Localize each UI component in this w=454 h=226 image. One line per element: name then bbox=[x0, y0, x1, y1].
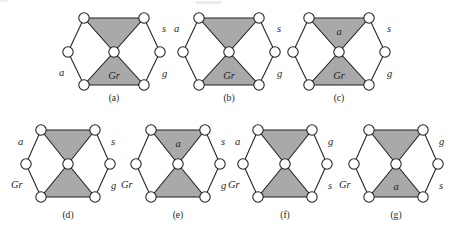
node-right bbox=[215, 159, 225, 169]
node-right bbox=[433, 159, 443, 169]
inner-label-bottom: a bbox=[393, 181, 398, 192]
node-center bbox=[391, 159, 401, 169]
node-center bbox=[224, 47, 234, 57]
node-center bbox=[334, 47, 344, 57]
outer-label-upper-left: a bbox=[18, 136, 23, 147]
inner-label-top: a bbox=[336, 26, 341, 37]
diagram-caption: (b) bbox=[223, 92, 234, 104]
node-top-right bbox=[364, 13, 374, 23]
diagram-d: a Gr s g (d) bbox=[12, 118, 122, 221]
outer-label-upper-right: g bbox=[439, 136, 444, 147]
node-left bbox=[238, 159, 248, 169]
node-top-left bbox=[364, 125, 374, 135]
diagram-caption: (f) bbox=[280, 209, 290, 221]
node-top-left bbox=[79, 13, 89, 23]
node-center bbox=[63, 159, 73, 169]
diagram-row-bottom: a Gr s g (d) bbox=[0, 118, 454, 221]
node-bottom-left bbox=[194, 80, 204, 90]
node-bottom-left bbox=[253, 192, 263, 202]
node-bottom-left bbox=[304, 80, 314, 90]
outer-label-lower-left: Gr bbox=[228, 179, 241, 190]
inner-label-bottom: Gr bbox=[108, 70, 121, 81]
node-bottom-right bbox=[254, 80, 264, 90]
node-bottom-right bbox=[139, 80, 149, 90]
diagram-g: a Gr g s (g) bbox=[340, 118, 450, 221]
node-top-right bbox=[200, 125, 210, 135]
node-left bbox=[288, 47, 298, 57]
inner-label-top: a bbox=[175, 138, 180, 149]
node-top-right bbox=[307, 125, 317, 135]
node-top-left bbox=[146, 125, 156, 135]
node-bottom-left bbox=[36, 192, 46, 202]
node-right bbox=[105, 159, 115, 169]
outer-label-upper-right: s bbox=[277, 23, 281, 34]
diagram-d-graph: a Gr s g (d) bbox=[12, 118, 122, 221]
node-top-right bbox=[254, 13, 264, 23]
diagram-caption: (g) bbox=[390, 209, 401, 221]
outer-label-lower-left: a bbox=[59, 67, 64, 78]
node-bottom-left bbox=[364, 192, 374, 202]
diagram-row-top: Gr a s g (a) bbox=[0, 6, 454, 103]
outer-label-lower-left: Gr bbox=[339, 179, 352, 190]
outer-label-lower-left: Gr bbox=[11, 179, 24, 190]
outer-label-upper-right: s bbox=[111, 136, 115, 147]
diagram-caption: (e) bbox=[173, 209, 184, 221]
figure-container: Gr a s g (a) bbox=[0, 0, 454, 226]
diagram-g-graph: a Gr g s (g) bbox=[340, 118, 450, 221]
node-top-right bbox=[418, 125, 428, 135]
node-top-right bbox=[90, 125, 100, 135]
scan-artifact bbox=[196, 1, 222, 4]
node-bottom-right bbox=[307, 192, 317, 202]
outer-label-lower-right: g bbox=[221, 180, 226, 191]
outer-label-lower-right: g bbox=[162, 68, 167, 79]
node-top-right bbox=[139, 13, 149, 23]
outer-label-upper-right: s bbox=[221, 136, 225, 147]
node-bottom-right bbox=[200, 192, 210, 202]
diagram-e-graph: a Gr s g (e) bbox=[122, 118, 232, 221]
node-right bbox=[380, 47, 390, 57]
diagram-b-graph: Gr a s g (b) bbox=[173, 6, 291, 103]
node-left bbox=[349, 159, 359, 169]
inner-label-bottom: Gr bbox=[333, 70, 346, 81]
diagram-caption: (c) bbox=[334, 92, 345, 104]
node-top-left bbox=[36, 125, 46, 135]
diagram-c: a Gr s g (c) bbox=[283, 6, 401, 103]
outer-label-lower-right: g bbox=[111, 180, 116, 191]
node-bottom-left bbox=[146, 192, 156, 202]
node-left bbox=[21, 159, 31, 169]
outer-label-upper-right: s bbox=[162, 23, 166, 34]
diagram-f: a Gr g s (f) bbox=[229, 118, 339, 221]
diagram-f-graph: a Gr g s (f) bbox=[229, 118, 339, 221]
outer-label-lower-left: Gr bbox=[121, 179, 134, 190]
node-right bbox=[270, 47, 280, 57]
outer-label-upper-left: a bbox=[174, 23, 179, 34]
diagram-e: a Gr s g (e) bbox=[122, 118, 232, 221]
node-bottom-right bbox=[90, 192, 100, 202]
diagram-caption: (d) bbox=[62, 209, 73, 221]
node-center bbox=[280, 159, 290, 169]
node-top-left bbox=[304, 13, 314, 23]
outer-label-upper-left: a bbox=[235, 136, 240, 147]
node-left bbox=[178, 47, 188, 57]
outer-label-lower-right: s bbox=[328, 180, 332, 191]
node-left bbox=[131, 159, 141, 169]
node-top-left bbox=[253, 125, 263, 135]
outer-label-upper-right: g bbox=[328, 136, 333, 147]
node-right bbox=[322, 159, 332, 169]
node-bottom-right bbox=[364, 80, 374, 90]
diagram-caption: (a) bbox=[109, 92, 120, 104]
scan-artifact bbox=[0, 0, 8, 2]
node-top-left bbox=[194, 13, 204, 23]
node-right bbox=[155, 47, 165, 57]
node-center bbox=[173, 159, 183, 169]
diagram-c-graph: a Gr s g (c) bbox=[283, 6, 401, 103]
diagram-a: Gr a s g (a) bbox=[58, 6, 176, 103]
inner-label-bottom: Gr bbox=[223, 70, 236, 81]
node-center bbox=[109, 47, 119, 57]
outer-label-upper-right: s bbox=[387, 23, 391, 34]
diagram-a-graph: Gr a s g (a) bbox=[58, 6, 176, 103]
node-bottom-left bbox=[79, 80, 89, 90]
node-bottom-right bbox=[418, 192, 428, 202]
outer-label-lower-right: g bbox=[387, 68, 392, 79]
outer-label-lower-right: g bbox=[277, 68, 282, 79]
